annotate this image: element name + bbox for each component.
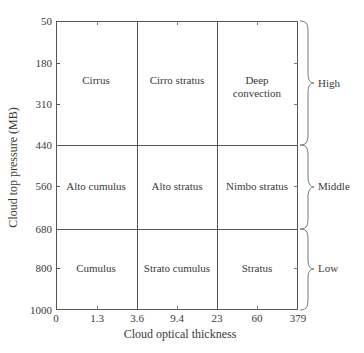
cell-stratus: Stratus (217, 262, 297, 275)
level-middle: Middle (318, 180, 350, 192)
xtick-top (97, 21, 98, 25)
xtick (257, 306, 258, 310)
xtick-top (257, 21, 258, 25)
xtick-label: 1.3 (77, 312, 117, 324)
brace-middle-icon (300, 145, 314, 229)
cell-alto-stratus: Alto stratus (137, 180, 217, 193)
cell-cirro-stratus: Cirro stratus (137, 74, 217, 87)
ytick (56, 63, 60, 64)
xtick-label: 0 (36, 312, 76, 324)
xtick-label: 9.4 (157, 312, 197, 324)
grid-hline-440 (56, 145, 298, 146)
ytick (56, 104, 60, 105)
cell-deep-convection-line2: convection (217, 87, 297, 100)
grid-hline-680 (56, 229, 298, 230)
xtick-label: 23 (197, 312, 237, 324)
ytick-label: 800 (12, 262, 52, 274)
xtick-top (177, 21, 178, 25)
brace-low-icon (300, 229, 314, 310)
xtick (97, 306, 98, 310)
level-low: Low (318, 262, 338, 274)
brace-high-icon (300, 21, 314, 145)
xtick-label: 60 (237, 312, 277, 324)
ytick-label: 50 (12, 15, 52, 27)
cell-strato-cumulus: Strato cumulus (137, 262, 217, 275)
cell-alto-cumulus: Alto cumulus (56, 180, 136, 193)
cell-cumulus: Cumulus (56, 262, 136, 275)
x-axis-title: Cloud optical thickness (110, 327, 250, 342)
xtick-label: 3.6 (117, 312, 157, 324)
ytick-label: 180 (12, 57, 52, 69)
cell-deep-convection-line1: Deep (217, 74, 297, 87)
cell-cirrus: Cirrus (56, 74, 136, 87)
y-axis-title: Cloud top pressure (MB) (6, 98, 21, 238)
xtick (177, 306, 178, 310)
cell-nimbo-stratus: Nimbo stratus (217, 180, 297, 193)
level-high: High (318, 77, 340, 89)
